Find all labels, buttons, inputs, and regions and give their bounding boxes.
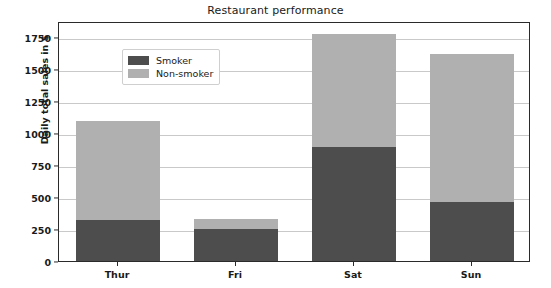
y-tick-mark xyxy=(54,165,58,166)
x-tick-mark xyxy=(471,262,472,266)
bar-segment-nonsmoker xyxy=(76,121,161,220)
y-tick-label: 750 xyxy=(11,161,51,172)
chart-figure: Restaurant performance Daily total sales… xyxy=(0,0,551,288)
gridline xyxy=(59,39,529,40)
y-tick-label: 250 xyxy=(11,225,51,236)
legend-item-smoker: Smoker xyxy=(128,54,213,66)
legend-swatch-smoker xyxy=(128,56,149,65)
bar-segment-nonsmoker xyxy=(194,219,279,229)
bar-segment-smoker xyxy=(430,202,515,261)
y-tick-label: 500 xyxy=(11,193,51,204)
y-tick-mark xyxy=(54,197,58,198)
x-tick-mark xyxy=(353,262,354,266)
bar-segment-smoker xyxy=(76,220,161,261)
x-tick-label-fri: Fri xyxy=(195,269,275,280)
y-tick-mark xyxy=(54,101,58,102)
x-tick-label-thur: Thur xyxy=(77,269,157,280)
y-tick-label: 1250 xyxy=(11,97,51,108)
legend-swatch-nonsmoker xyxy=(128,69,149,78)
y-tick-mark xyxy=(54,69,58,70)
y-tick-label: 1000 xyxy=(11,129,51,140)
chart-legend: Smoker Non-smoker xyxy=(122,49,220,85)
y-tick-mark xyxy=(54,261,58,262)
bar-segment-smoker xyxy=(194,229,279,261)
x-tick-label-sat: Sat xyxy=(313,269,393,280)
y-tick-mark xyxy=(54,229,58,230)
legend-item-nonsmoker: Non-smoker xyxy=(128,67,213,79)
y-tick-mark xyxy=(54,133,58,134)
x-tick-mark xyxy=(117,262,118,266)
y-tick-label: 1750 xyxy=(11,33,51,44)
x-tick-mark xyxy=(235,262,236,266)
legend-label-nonsmoker: Non-smoker xyxy=(156,68,213,79)
y-tick-mark xyxy=(54,37,58,38)
chart-title: Restaurant performance xyxy=(0,4,551,17)
bar-segment-nonsmoker xyxy=(430,54,515,202)
y-tick-label: 1500 xyxy=(11,65,51,76)
legend-label-smoker: Smoker xyxy=(156,55,192,66)
y-axis-label: Daily total sales in $ xyxy=(39,0,50,180)
bar-segment-smoker xyxy=(312,147,397,261)
plot-area: Smoker Non-smoker xyxy=(58,22,530,262)
y-tick-label: 0 xyxy=(11,257,51,268)
bar-segment-nonsmoker xyxy=(312,34,397,147)
x-tick-label-sun: Sun xyxy=(431,269,511,280)
